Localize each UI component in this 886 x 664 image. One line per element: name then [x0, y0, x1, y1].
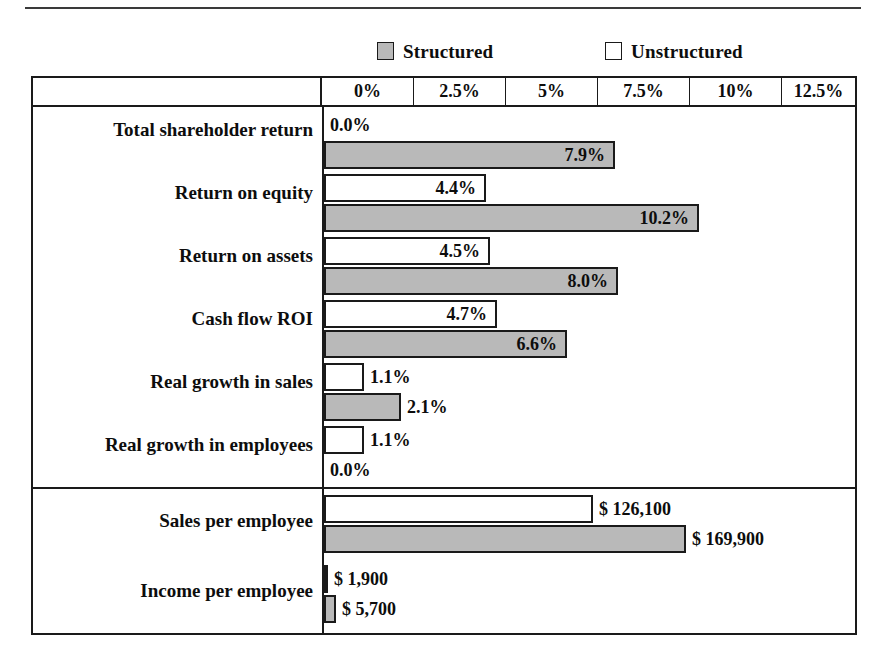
axis-tick-4: 10% [690, 78, 782, 105]
bar-value-unstructured-total-shareholder-return: 0.0% [330, 116, 371, 134]
row-label-cash-flow-roi: Cash flow ROI [33, 309, 313, 328]
bar-structured-total-shareholder-return: 7.9% [324, 141, 615, 169]
bar-unstructured-total-shareholder-return: 0.0% [324, 111, 330, 139]
chart-row-sales-per-employee: Sales per employee$ 126,100$ 169,900 [33, 495, 855, 565]
bar-structured-cash-flow-roi: 6.6% [324, 330, 567, 358]
bar-value-unstructured-income-per-employee: $ 1,900 [334, 570, 388, 588]
bar-value-structured-return-on-equity: 10.2% [640, 209, 690, 227]
bar-structured-return-on-equity: 10.2% [324, 204, 699, 232]
axis-tick-1: 2.5% [414, 78, 506, 105]
row-label-sales-per-employee: Sales per employee [33, 511, 313, 530]
bar-value-structured-income-per-employee: $ 5,700 [342, 600, 396, 618]
chart-legend: Structured Unstructured [31, 36, 857, 66]
chart-row-real-growth-in-employees: Real growth in employees1.1%0.0% [33, 426, 855, 489]
chart-row-income-per-employee: Income per employee$ 1,900$ 5,700 [33, 565, 855, 635]
bar-value-structured-real-growth-in-employees: 0.0% [330, 461, 371, 479]
bar-structured-return-on-assets: 8.0% [324, 267, 618, 295]
bar-value-unstructured-real-growth-in-sales: 1.1% [370, 368, 411, 386]
bars-cash-flow-roi: 4.7%6.6% [324, 300, 855, 363]
bar-value-structured-total-shareholder-return: 7.9% [565, 146, 606, 164]
axis-tick-0: 0% [322, 78, 414, 105]
bar-value-unstructured-return-on-equity: 4.4% [436, 179, 477, 197]
axis-tick-3: 7.5% [598, 78, 690, 105]
bars-sales-per-employee: $ 126,100$ 169,900 [324, 495, 855, 565]
bar-structured-sales-per-employee: $ 169,900 [324, 525, 686, 553]
bars-return-on-equity: 4.4%10.2% [324, 174, 855, 237]
chart-row-real-growth-in-sales: Real growth in sales1.1%2.1% [33, 363, 855, 426]
axis-tick-header-row: 0% 2.5% 5% 7.5% 10% 12.5% [33, 78, 855, 107]
bar-structured-income-per-employee: $ 5,700 [324, 595, 336, 623]
axis-tick-2: 5% [506, 78, 598, 105]
gray-filled-square-icon [377, 42, 394, 60]
chart-figure: Structured Unstructured 0% 2.5% 5% 7.5% … [0, 0, 886, 664]
row-label-return-on-assets: Return on assets [33, 246, 313, 265]
per-employee-metrics-section: Sales per employee$ 126,100$ 169,900Inco… [33, 489, 855, 633]
bar-unstructured-income-per-employee: $ 1,900 [324, 565, 328, 593]
row-label-total-shareholder-return: Total shareholder return [33, 120, 313, 139]
axis-header-label-spacer [33, 78, 322, 105]
bar-value-unstructured-sales-per-employee: $ 126,100 [599, 500, 671, 518]
legend-item-structured: Structured [377, 36, 493, 66]
row-label-real-growth-in-employees: Real growth in employees [33, 435, 313, 454]
bar-unstructured-cash-flow-roi: 4.7% [324, 300, 497, 328]
bar-value-structured-sales-per-employee: $ 169,900 [692, 530, 764, 548]
row-label-income-per-employee: Income per employee [33, 581, 313, 600]
chart-table: 0% 2.5% 5% 7.5% 10% 12.5% Total sharehol… [31, 76, 857, 635]
axis-tick-5: 12.5% [782, 78, 855, 105]
bar-value-structured-cash-flow-roi: 6.6% [517, 335, 558, 353]
bars-income-per-employee: $ 1,900$ 5,700 [324, 565, 855, 635]
bar-value-unstructured-cash-flow-roi: 4.7% [447, 305, 488, 323]
bar-value-structured-real-growth-in-sales: 2.1% [407, 398, 448, 416]
bar-unstructured-return-on-assets: 4.5% [324, 237, 490, 265]
chart-row-cash-flow-roi: Cash flow ROI4.7%6.6% [33, 300, 855, 363]
row-label-real-growth-in-sales: Real growth in sales [33, 372, 313, 391]
bar-value-unstructured-return-on-assets: 4.5% [440, 242, 481, 260]
legend-label-unstructured: Unstructured [631, 42, 743, 61]
percent-metrics-section: Total shareholder return0.0%7.9%Return o… [33, 107, 855, 489]
bar-value-structured-return-on-assets: 8.0% [568, 272, 609, 290]
chart-row-return-on-equity: Return on equity4.4%10.2% [33, 174, 855, 237]
bar-structured-real-growth-in-sales: 2.1% [324, 393, 401, 421]
legend-item-unstructured: Unstructured [605, 36, 743, 66]
bar-unstructured-real-growth-in-employees: 1.1% [324, 426, 364, 454]
bars-real-growth-in-employees: 1.1%0.0% [324, 426, 855, 489]
chart-row-return-on-assets: Return on assets4.5%8.0% [33, 237, 855, 300]
row-label-return-on-equity: Return on equity [33, 183, 313, 202]
bars-return-on-assets: 4.5%8.0% [324, 237, 855, 300]
white-empty-square-icon [605, 42, 622, 60]
bar-unstructured-sales-per-employee: $ 126,100 [324, 495, 593, 523]
legend-label-structured: Structured [403, 42, 493, 61]
bar-structured-real-growth-in-employees: 0.0% [324, 456, 330, 484]
bar-value-unstructured-real-growth-in-employees: 1.1% [370, 431, 411, 449]
bar-unstructured-return-on-equity: 4.4% [324, 174, 486, 202]
bars-real-growth-in-sales: 1.1%2.1% [324, 363, 855, 426]
chart-row-total-shareholder-return: Total shareholder return0.0%7.9% [33, 111, 855, 174]
bars-total-shareholder-return: 0.0%7.9% [324, 111, 855, 174]
top-horizontal-rule [25, 7, 861, 9]
bar-unstructured-real-growth-in-sales: 1.1% [324, 363, 364, 391]
